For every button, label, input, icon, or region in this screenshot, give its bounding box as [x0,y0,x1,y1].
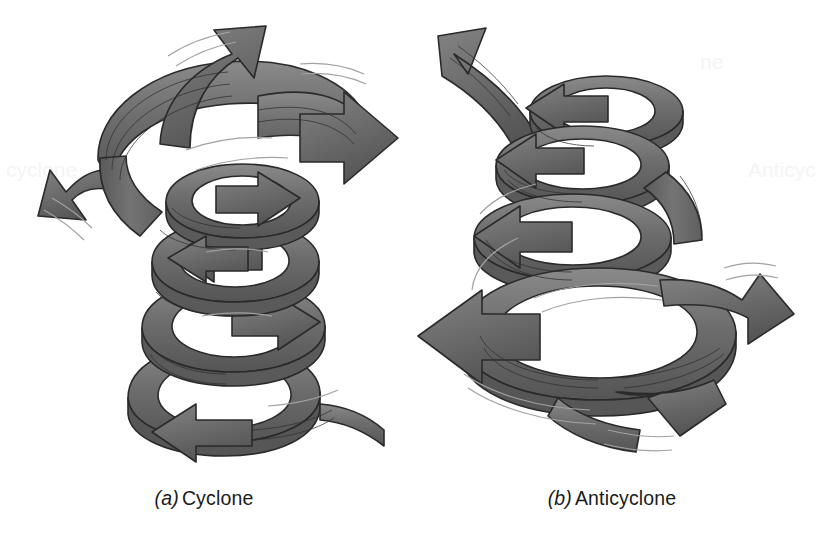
anticyclone-illustration [408,0,816,492]
anticyclone-spiral-group [408,0,794,452]
panel-anticyclone: (b)Anticyclone [408,0,816,536]
caption-cyclone: (a)Cyclone [0,487,408,510]
anticyclone-outflow-ring [418,268,794,452]
caption-name-anticyclone: Anticyclone [575,487,676,509]
caption-label-b: (b) [548,487,572,509]
caption-label-a: (a) [155,487,179,509]
cyclone-illustration [0,0,408,492]
figure-root: cyclone Anticyc ne [0,0,816,536]
caption-anticyclone: (b)Anticyclone [408,487,816,510]
panel-cyclone: (a)Cyclone [0,0,408,536]
cyclone-spiral-group [38,26,398,462]
caption-name-cyclone: Cyclone [182,487,254,509]
